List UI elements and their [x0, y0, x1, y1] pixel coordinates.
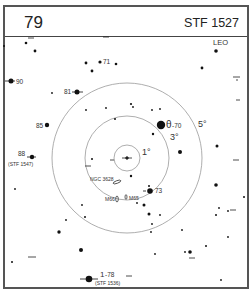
label-88-sub: (STF 1547): [8, 161, 34, 167]
galaxy-ngc3628: [113, 179, 121, 184]
center-star: [122, 157, 132, 160]
label-71: 71: [103, 58, 111, 65]
ring-label-1: 1°: [142, 147, 151, 157]
constellation-label: LEO: [213, 38, 228, 47]
label-theta-num: -70: [172, 122, 182, 129]
label-73: 73: [155, 187, 163, 194]
star-73: [147, 188, 153, 194]
ring-label-3: 3°: [170, 132, 179, 142]
galaxy-m65: [125, 195, 127, 200]
star-71: [98, 60, 101, 63]
star-map: LEO 71 90 81 85 88 (STF 1547) θ -70 73 1…: [0, 0, 251, 292]
label-78-sub: (STF 1536): [95, 280, 121, 286]
label-81: 81: [64, 88, 72, 95]
label-ngc3628: NGC 3628: [90, 176, 114, 182]
label-78: -78: [105, 271, 115, 278]
star-85: [45, 123, 49, 127]
label-m66: M66: [105, 196, 115, 202]
stars: [3, 42, 245, 283]
ring-label-5: 5°: [198, 119, 207, 129]
label-m65: M65: [129, 195, 139, 201]
double-star-ticks: [28, 37, 240, 276]
label-90: 90: [16, 78, 24, 85]
label-85: 85: [36, 122, 44, 129]
star-theta-leo: [157, 121, 165, 129]
label-88: 88: [18, 150, 26, 157]
